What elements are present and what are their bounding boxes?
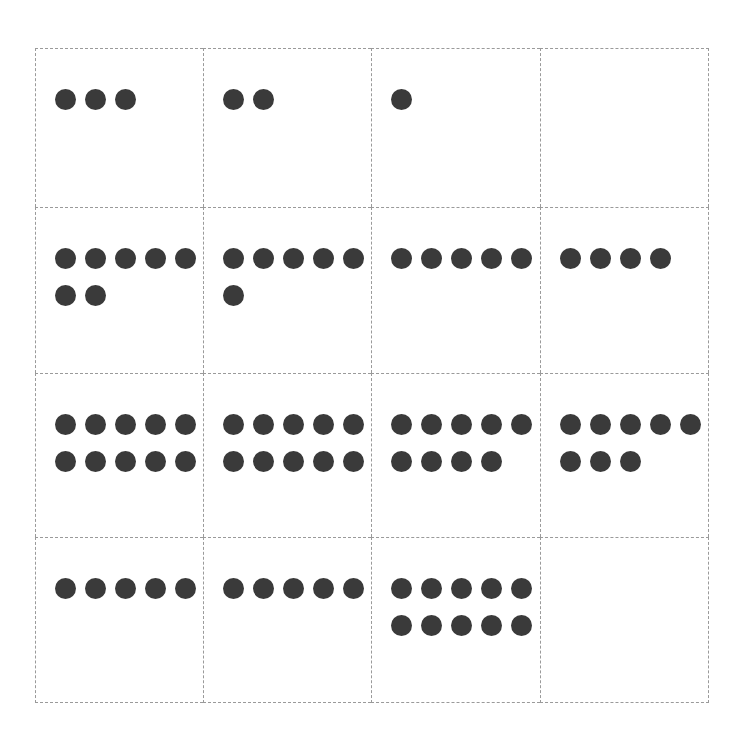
dot-marker (175, 414, 196, 435)
dot-row (55, 285, 203, 306)
dot-marker (115, 89, 136, 110)
grid-cell-r2c3 (371, 207, 540, 373)
dot-marker (421, 248, 442, 269)
dot-marker (85, 451, 106, 472)
dot-marker (481, 414, 502, 435)
dot-marker (223, 89, 244, 110)
dot-marker (55, 248, 76, 269)
dot-marker (115, 578, 136, 599)
dot-row (391, 414, 540, 435)
dot-marker (145, 414, 166, 435)
dot-marker (85, 89, 106, 110)
dot-marker (115, 414, 136, 435)
dot-marker (590, 451, 611, 472)
dot-marker (391, 578, 412, 599)
dot-marker (55, 414, 76, 435)
dot-marker (650, 414, 671, 435)
dot-row (223, 89, 371, 110)
grid-cell-r1c2 (203, 48, 371, 207)
dot-marker (283, 578, 304, 599)
grid-cell-r1c4 (540, 48, 709, 207)
dot-marker (115, 248, 136, 269)
grid-cell-r3c3 (371, 373, 540, 537)
grid-cell-r3c1 (35, 373, 203, 537)
dot-stack (391, 248, 540, 269)
dot-marker (253, 89, 274, 110)
dot-marker (223, 578, 244, 599)
dot-marker (253, 414, 274, 435)
dot-marker (283, 248, 304, 269)
dot-row (391, 578, 540, 599)
dot-stack (560, 248, 709, 269)
dot-marker (451, 578, 472, 599)
dot-marker (253, 248, 274, 269)
dot-marker (283, 451, 304, 472)
dot-marker (421, 615, 442, 636)
dot-row (223, 451, 371, 472)
dot-marker (313, 451, 334, 472)
dot-stack (223, 248, 371, 306)
dot-marker (55, 285, 76, 306)
dot-marker (253, 451, 274, 472)
dot-marker (451, 451, 472, 472)
dot-row (560, 451, 709, 472)
grid-cell-r4c2 (203, 537, 371, 703)
dot-marker (55, 578, 76, 599)
dot-stack (55, 248, 203, 306)
dot-marker (481, 248, 502, 269)
dot-marker (343, 578, 364, 599)
dot-row (55, 451, 203, 472)
grid-cell-r2c4 (540, 207, 709, 373)
dot-marker (343, 414, 364, 435)
dot-marker (253, 578, 274, 599)
dot-row (223, 285, 371, 306)
dot-marker (620, 414, 641, 435)
dot-marker (145, 248, 166, 269)
grid-cell-r4c3 (371, 537, 540, 703)
dot-marker (511, 615, 532, 636)
grid-cell-r1c1 (35, 48, 203, 207)
dot-row (223, 578, 371, 599)
dot-marker (223, 248, 244, 269)
grid-cell-r4c4 (540, 537, 709, 703)
dot-marker (560, 451, 581, 472)
dot-stack (223, 414, 371, 472)
grid-cell-r4c1 (35, 537, 203, 703)
dot-row (55, 414, 203, 435)
dot-marker (511, 578, 532, 599)
dot-row (560, 248, 709, 269)
dot-marker (481, 615, 502, 636)
dot-marker (85, 414, 106, 435)
dot-marker (451, 615, 472, 636)
dot-marker (313, 414, 334, 435)
dot-marker (223, 285, 244, 306)
dot-marker (55, 89, 76, 110)
grid-table (35, 48, 709, 703)
dot-marker (313, 578, 334, 599)
grid-cell-r1c3 (371, 48, 540, 207)
dot-stack (55, 414, 203, 472)
dot-marker (391, 414, 412, 435)
dot-marker (391, 615, 412, 636)
dot-marker (650, 248, 671, 269)
dot-marker (391, 248, 412, 269)
dot-marker (421, 414, 442, 435)
dot-marker (85, 578, 106, 599)
grid-cell-r2c1 (35, 207, 203, 373)
dot-marker (85, 285, 106, 306)
dot-row (391, 89, 540, 110)
dot-marker (145, 578, 166, 599)
dot-marker (283, 414, 304, 435)
dot-row (391, 615, 540, 636)
dot-marker (313, 248, 334, 269)
dot-marker (391, 89, 412, 110)
dot-marker (223, 414, 244, 435)
dot-marker (175, 248, 196, 269)
dot-stack (391, 414, 540, 472)
dot-marker (451, 248, 472, 269)
dot-marker (421, 578, 442, 599)
dot-marker (511, 248, 532, 269)
dot-marker (451, 414, 472, 435)
dot-marker (175, 578, 196, 599)
dot-row (223, 248, 371, 269)
